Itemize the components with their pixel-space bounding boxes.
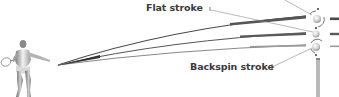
diagram-canvas xyxy=(0,0,339,97)
stroke-trajectories xyxy=(56,16,306,67)
racket-icon xyxy=(0,56,12,67)
tennis-stroke-diagram: Flat stroke Backspin stroke xyxy=(0,0,339,97)
tennis-player-figure xyxy=(0,40,50,97)
exit-dashes xyxy=(330,18,339,48)
backspin-stroke-label: Backspin stroke xyxy=(190,61,274,72)
flat-stroke-label: Flat stroke xyxy=(146,2,203,13)
flat-ball xyxy=(313,28,320,38)
topspin-ball xyxy=(310,8,324,29)
net-post xyxy=(316,58,320,97)
backspin-ball xyxy=(311,39,322,56)
